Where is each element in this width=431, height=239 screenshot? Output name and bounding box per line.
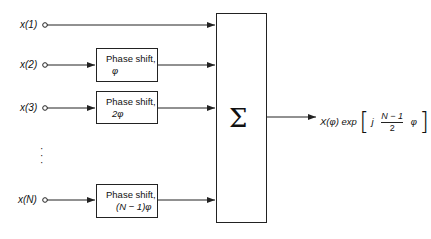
left-bracket: [: [359, 108, 368, 136]
right-bracket: ]: [420, 108, 429, 136]
input-label-2: x(2): [20, 59, 37, 70]
input-label-n: x(N): [18, 194, 37, 205]
output-prefix: X(φ) exp: [320, 116, 357, 127]
phase-shift-label: Phase shift,: [106, 189, 156, 200]
input-label-1: x(1): [20, 19, 37, 30]
phase-shift-value: 2φ: [106, 108, 157, 120]
phase-shift-label: Phase shift,: [106, 53, 156, 64]
phase-shift-value: φ: [106, 65, 157, 77]
sigma-symbol: Σ: [229, 103, 247, 133]
numerator: N − 1: [381, 111, 403, 123]
phase-shift-block-2: Phase shift, 2φ: [96, 91, 158, 124]
output-expression: X(φ) exp [ j N − 1 2 φ ]: [320, 108, 429, 136]
ellipsis: ···: [40, 145, 43, 166]
denominator: 2: [381, 123, 403, 134]
phase-shift-value: (N − 1)φ: [106, 201, 157, 213]
fraction: N − 1 2: [381, 111, 403, 134]
phase-shift-block-n: Phase shift, (N − 1)φ: [96, 184, 158, 218]
phase-shift-label: Phase shift,: [106, 96, 156, 107]
input-label-3: x(3): [20, 102, 37, 113]
phi-symbol: φ: [411, 116, 417, 127]
phase-shift-block-1: Phase shift, φ: [96, 48, 158, 82]
imaginary-unit: j: [371, 116, 373, 127]
